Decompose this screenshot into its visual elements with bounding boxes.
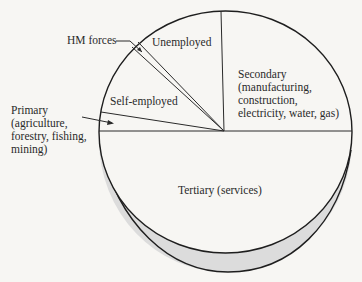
label-secondary: Secondary (manufacturing, construction, … bbox=[238, 68, 339, 120]
label-primary: Primary (agriculture, forestry, fishing,… bbox=[11, 104, 87, 156]
label-hm-forces: HM forces bbox=[67, 34, 117, 47]
label-unemployed: Unemployed bbox=[152, 36, 211, 49]
label-tertiary: Tertiary (services) bbox=[178, 184, 262, 197]
label-self-employed: Self-employed bbox=[110, 95, 178, 108]
